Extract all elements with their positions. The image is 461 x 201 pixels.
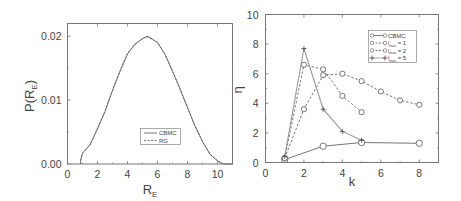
data-point-diamond-marker — [321, 67, 326, 72]
y-tick-label: 6 — [253, 68, 259, 80]
left-y-axis-label: P(RE) — [22, 80, 39, 112]
legend-circle-marker — [370, 34, 374, 38]
legend-label-rg: RG — [159, 138, 168, 144]
left-chart: 0246810 0.000.010.02 RE P(RE) CBMC RG — [22, 24, 233, 200]
data-point-plus-marker — [301, 46, 306, 51]
y-tick-label: 0 — [253, 157, 259, 169]
data-point-diamond-marker — [340, 93, 345, 98]
y-tick-label: 0.02 — [41, 30, 62, 42]
legend-diamond-marker — [370, 49, 374, 53]
x-tick-label: 2 — [95, 168, 101, 180]
data-point-diamond-marker — [340, 71, 345, 76]
legend-diamond-marker — [370, 41, 374, 45]
left-x-ticks: 0246810 — [65, 24, 224, 181]
figure: 0246810 0.000.010.02 RE P(RE) CBMC RG 02… — [0, 0, 461, 201]
y-tick-label: 4 — [253, 97, 259, 109]
y-tick-label: 2 — [253, 127, 259, 139]
data-point-diamond-marker — [301, 107, 306, 112]
series-line-0 — [285, 143, 420, 160]
data-point-diamond-marker — [359, 110, 364, 115]
x-tick-label: 8 — [185, 168, 191, 180]
series-line-1 — [285, 74, 420, 158]
y-tick-label: 10 — [247, 9, 259, 21]
x-tick-label: 6 — [155, 168, 161, 180]
legend-label-cbmc: CBMC — [159, 130, 177, 136]
x-tick-label: 0 — [263, 167, 269, 179]
right-y-axis-label: η — [230, 86, 245, 93]
data-point-diamond-marker — [359, 79, 364, 84]
data-point-diamond-marker — [321, 73, 326, 78]
x-tick-label: 2 — [301, 167, 307, 179]
left-x-axis-label: RE — [143, 182, 158, 199]
left-legend: CBMC RG — [141, 129, 181, 145]
right-chart: 02468 0246810 k η CBMClmax = 1lmax = 2lm… — [230, 9, 439, 190]
data-point-circle-marker — [416, 140, 422, 146]
x-tick-label: 4 — [125, 168, 131, 180]
x-tick-label: 0 — [65, 168, 71, 180]
left-y-ticks: 0.000.010.02 — [41, 30, 70, 170]
legend-diamond-marker — [383, 41, 387, 45]
y-tick-label: 0.00 — [41, 158, 62, 170]
legend-label: CBMC — [388, 33, 406, 39]
line-rg — [80, 37, 232, 164]
x-tick-label: 8 — [416, 167, 422, 179]
data-point-diamond-marker — [378, 89, 383, 94]
legend-circle-marker — [383, 34, 387, 38]
data-point-diamond-marker — [417, 102, 422, 107]
data-point-circle-marker — [320, 143, 326, 149]
x-tick-label: 6 — [378, 167, 384, 179]
right-legend: CBMClmax = 1lmax = 2lmax = 5 — [369, 31, 417, 63]
legend-diamond-marker — [383, 49, 387, 53]
data-point-diamond-marker — [301, 62, 306, 67]
y-tick-label: 8 — [253, 38, 259, 50]
data-point-diamond-marker — [397, 98, 402, 103]
x-tick-label: 4 — [339, 167, 345, 179]
right-x-axis-label: k — [349, 174, 356, 189]
right-plot-area — [282, 46, 423, 163]
y-tick-label: 0.01 — [41, 94, 62, 106]
x-tick-label: 10 — [212, 168, 224, 180]
